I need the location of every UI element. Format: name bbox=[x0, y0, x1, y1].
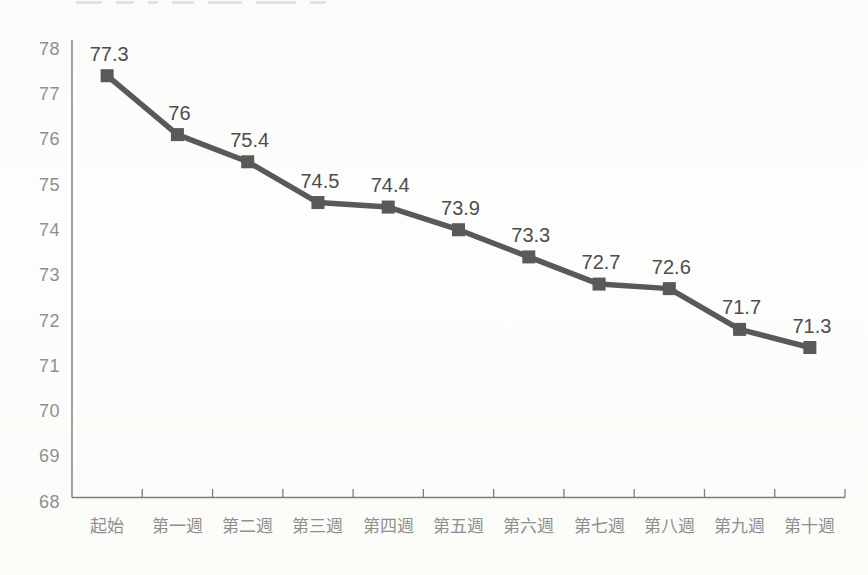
data-point-label: 71.3 bbox=[792, 315, 831, 337]
data-point-label: 72.6 bbox=[652, 256, 691, 278]
data-point-marker bbox=[311, 196, 324, 209]
x-category-label: 起始 bbox=[90, 517, 124, 536]
y-tick-label: 76 bbox=[39, 129, 60, 149]
x-category-label: 第二週 bbox=[222, 517, 273, 536]
x-category-label: 第九週 bbox=[714, 517, 765, 536]
y-tick-label: 75 bbox=[39, 175, 60, 195]
y-tick-label: 73 bbox=[39, 265, 60, 285]
data-point-marker bbox=[171, 128, 184, 141]
y-tick-label: 72 bbox=[39, 311, 60, 331]
data-point-marker bbox=[803, 341, 816, 354]
data-point-label: 72.7 bbox=[582, 251, 621, 273]
x-category-label: 第七週 bbox=[574, 517, 625, 536]
data-point-marker bbox=[733, 323, 746, 336]
chart-canvas: 7877767574737271706968起始第一週第二週第三週第四週第五週第… bbox=[0, 0, 868, 575]
data-point-marker bbox=[663, 282, 676, 295]
y-tick-label: 70 bbox=[39, 401, 60, 421]
x-category-label: 第一週 bbox=[152, 517, 203, 536]
y-tick-label: 68 bbox=[39, 492, 60, 512]
data-point-label: 75.4 bbox=[230, 129, 269, 151]
data-point-label: 71.7 bbox=[722, 296, 761, 318]
x-category-label: 第八週 bbox=[644, 517, 695, 536]
data-point-marker bbox=[382, 201, 395, 214]
data-point-marker bbox=[101, 69, 114, 82]
data-point-label: 73.3 bbox=[511, 224, 550, 246]
data-point-marker bbox=[593, 278, 606, 291]
x-category-label: 第五週 bbox=[433, 517, 484, 536]
x-category-label: 第六週 bbox=[503, 517, 554, 536]
y-tick-label: 78 bbox=[39, 39, 60, 59]
data-point-label: 73.9 bbox=[441, 197, 480, 219]
data-point-marker bbox=[522, 250, 535, 263]
data-point-label: 74.5 bbox=[300, 170, 339, 192]
data-point-label: 77.3 bbox=[90, 43, 129, 65]
data-point-label: 74.4 bbox=[371, 174, 410, 196]
x-category-label: 第十週 bbox=[784, 517, 835, 536]
y-tick-label: 69 bbox=[39, 446, 60, 466]
data-point-label: 76 bbox=[168, 102, 190, 124]
scanned-page: 7877767574737271706968起始第一週第二週第三週第四週第五週第… bbox=[0, 0, 868, 575]
x-category-label: 第三週 bbox=[292, 517, 343, 536]
data-point-marker bbox=[241, 155, 254, 168]
y-tick-label: 74 bbox=[39, 220, 60, 240]
x-category-label: 第四週 bbox=[363, 517, 414, 536]
y-tick-label: 71 bbox=[39, 356, 60, 376]
weight-trend-line-chart: 7877767574737271706968起始第一週第二週第三週第四週第五週第… bbox=[0, 0, 868, 575]
data-point-marker bbox=[452, 223, 465, 236]
y-tick-label: 77 bbox=[39, 84, 60, 104]
